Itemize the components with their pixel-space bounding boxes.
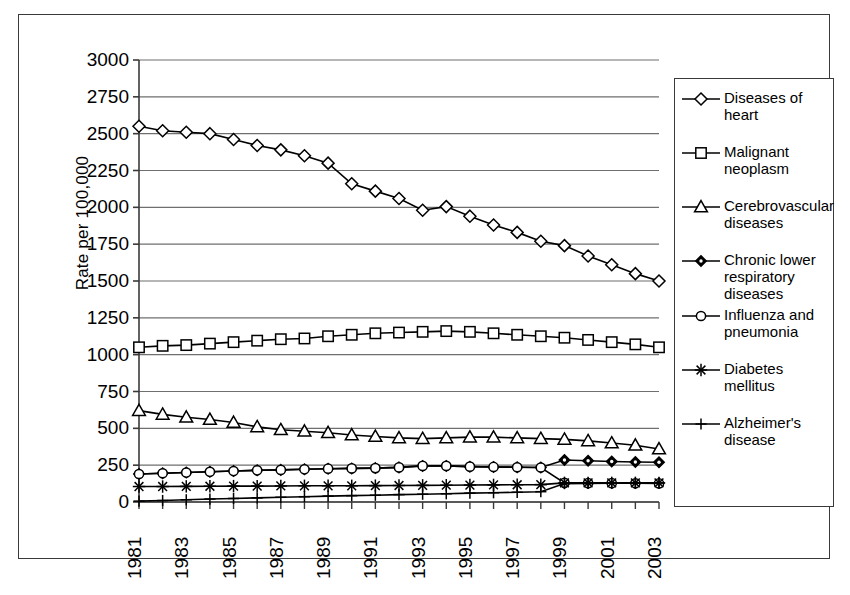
legend-marker <box>681 251 721 271</box>
legend-label: Chronic lower respiratory diseases <box>721 251 816 302</box>
legend-marker <box>681 143 721 163</box>
legend-symbol <box>695 93 707 105</box>
data-point-marker <box>583 335 593 345</box>
data-point-marker <box>228 337 238 347</box>
data-point-marker <box>252 335 262 345</box>
legend-marker-square <box>681 143 721 163</box>
data-point-marker <box>276 334 286 344</box>
data-point-marker <box>370 328 380 338</box>
data-point-marker <box>180 126 192 138</box>
marker-center <box>657 461 660 464</box>
data-point-marker <box>299 333 309 343</box>
data-point-marker <box>696 311 705 320</box>
legend-marker <box>681 197 721 217</box>
data-point-marker <box>133 404 146 415</box>
y-axis-tick-labels: 0250500750100012501500175020002250250027… <box>63 60 129 502</box>
data-point-marker <box>204 128 216 140</box>
legend-item[interactable]: Influenza and pneumonia <box>675 306 833 340</box>
data-point-marker <box>536 463 545 472</box>
data-point-marker <box>417 327 427 337</box>
x-tick-label: 2003 <box>644 537 666 579</box>
data-point-marker <box>275 144 287 156</box>
data-point-marker <box>300 465 309 474</box>
marker-center <box>586 459 589 462</box>
x-tick-label: 1995 <box>455 537 477 579</box>
legend-marker <box>681 360 721 380</box>
legend-marker <box>681 89 721 109</box>
data-point-marker <box>181 340 191 350</box>
data-point-marker <box>653 275 665 287</box>
data-point-marker <box>157 125 169 137</box>
data-point-marker <box>441 326 451 336</box>
legend-item[interactable]: Malignant neoplasm <box>675 143 833 177</box>
data-point-marker <box>157 341 167 351</box>
legend-symbol <box>696 148 706 158</box>
y-tick-label: 750 <box>97 381 129 403</box>
x-tick-label: 1981 <box>124 537 146 579</box>
data-point-marker <box>393 192 405 204</box>
data-point-marker <box>442 461 451 470</box>
legend-marker-diamond <box>681 89 721 109</box>
data-point-marker <box>696 148 706 158</box>
data-point-marker <box>559 333 569 343</box>
x-tick-label: 1991 <box>360 537 382 579</box>
y-tick-label: 0 <box>118 491 129 513</box>
data-point-marker <box>535 235 547 247</box>
data-point-marker <box>630 339 640 349</box>
y-tick-label: 1500 <box>87 270 129 292</box>
chart-screenshot: Rate per 100,000 02505007501000125015001… <box>0 0 850 595</box>
legend-label: Influenza and pneumonia <box>721 306 814 340</box>
legend-item[interactable]: Diabetes mellitus <box>675 360 833 394</box>
data-point-marker <box>488 328 498 338</box>
marker-center <box>634 460 637 463</box>
data-point-marker <box>607 337 617 347</box>
data-point-marker <box>417 204 429 216</box>
x-tick-label: 1993 <box>408 537 430 579</box>
y-tick-label: 1750 <box>87 233 129 255</box>
legend-item[interactable]: Chronic lower respiratory diseases <box>675 251 833 302</box>
data-point-marker <box>511 226 523 238</box>
data-point-marker <box>228 134 240 146</box>
marker-center <box>610 460 613 463</box>
data-point-marker <box>251 139 263 151</box>
x-tick-label: 1989 <box>313 537 335 579</box>
x-tick-label: 1987 <box>266 537 288 579</box>
legend-item[interactable]: Diseases of heart <box>675 89 833 123</box>
y-tick-label: 2750 <box>87 86 129 108</box>
data-point-marker <box>465 327 475 337</box>
legend-item[interactable]: Cerebrovascular diseases <box>675 197 833 231</box>
data-point-marker <box>558 240 570 252</box>
data-point-marker <box>347 464 356 473</box>
series-malignant-neoplasm <box>134 326 664 353</box>
data-point-marker <box>134 342 144 352</box>
y-tick-label: 3000 <box>87 49 129 71</box>
chart-frame: Rate per 100,000 02505007501000125015001… <box>18 14 830 559</box>
data-point-marker <box>205 467 214 476</box>
data-point-marker <box>418 461 427 470</box>
legend-marker-diamond-filled <box>681 251 721 271</box>
x-tick-label: 1997 <box>502 537 524 579</box>
data-point-marker <box>654 342 664 352</box>
data-point-marker <box>253 466 262 475</box>
data-point-marker <box>298 150 310 162</box>
legend-marker-circle <box>681 306 721 326</box>
data-point-marker <box>394 463 403 472</box>
legend-marker-plus <box>681 414 721 434</box>
data-point-marker <box>133 120 145 132</box>
data-point-marker <box>440 201 452 213</box>
legend-symbol <box>696 311 705 320</box>
y-tick-label: 250 <box>97 454 129 476</box>
plot-area <box>139 60 659 502</box>
plot-svg <box>139 60 659 502</box>
data-point-marker <box>229 466 238 475</box>
legend-marker-star <box>681 360 721 380</box>
data-point-marker <box>205 338 215 348</box>
legend-item[interactable]: Alzheimer's disease <box>675 414 833 448</box>
legend-label: Alzheimer's disease <box>721 414 801 448</box>
x-axis-tick-labels: 1981198319851987198919911993199519971999… <box>139 507 659 579</box>
legend-label: Malignant neoplasm <box>721 143 789 177</box>
legend-marker-triangle <box>681 197 721 217</box>
data-point-marker <box>323 464 332 473</box>
y-tick-label: 500 <box>97 417 129 439</box>
data-point-marker <box>182 468 191 477</box>
